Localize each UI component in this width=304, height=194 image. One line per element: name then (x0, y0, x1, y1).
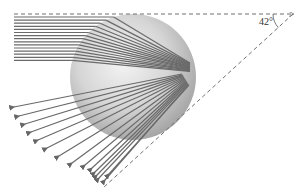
rainbow-droplet-diagram (0, 0, 304, 194)
angle-label: 42° (259, 17, 273, 27)
angle-arc (273, 14, 278, 28)
